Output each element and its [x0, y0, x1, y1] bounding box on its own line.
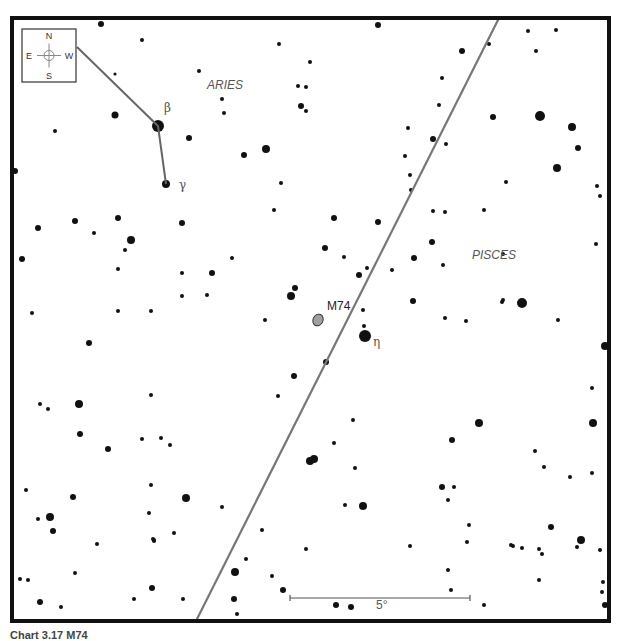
star: [535, 111, 545, 121]
star: [362, 324, 366, 328]
star: [272, 208, 276, 212]
star: [35, 225, 41, 231]
star: [50, 528, 56, 534]
star: [235, 612, 239, 616]
m74-galaxy-icon: [311, 312, 325, 327]
star: [511, 544, 515, 548]
star: [263, 318, 267, 322]
star: [410, 298, 416, 304]
star: [231, 568, 239, 576]
star: [517, 298, 527, 308]
star: [533, 449, 537, 453]
star: [475, 419, 483, 427]
star: [18, 577, 22, 581]
star: [331, 215, 337, 221]
star: [75, 400, 83, 408]
star: [26, 578, 30, 582]
star: [292, 285, 298, 291]
star: [490, 114, 496, 120]
chart-caption: Chart 3.17 M74: [10, 629, 88, 641]
compass-label: E: [26, 51, 32, 61]
compass-label: N: [46, 31, 53, 41]
star: [361, 308, 365, 312]
star: [112, 112, 119, 119]
star: [575, 545, 579, 549]
star: [568, 123, 576, 131]
star: [115, 215, 121, 221]
star: [446, 568, 450, 572]
star: [168, 443, 172, 447]
star: [241, 152, 247, 158]
star: [92, 231, 96, 235]
star: [439, 484, 445, 490]
star: [152, 538, 156, 542]
star: [577, 536, 585, 544]
star: [220, 97, 224, 101]
star: [590, 471, 594, 475]
star: [600, 590, 604, 594]
star: [594, 242, 598, 246]
star: [36, 517, 40, 521]
star: [38, 402, 42, 406]
star: [575, 145, 581, 151]
star: [19, 256, 25, 262]
star: [222, 111, 226, 115]
star: [589, 419, 597, 427]
star: [304, 547, 308, 551]
star: [116, 309, 120, 313]
star: [430, 136, 436, 142]
star: [72, 218, 78, 224]
star: [464, 319, 468, 323]
star: [70, 494, 76, 500]
star: [375, 219, 381, 225]
star: [298, 103, 304, 109]
star: [542, 465, 546, 469]
star: [95, 542, 99, 546]
star: [197, 69, 201, 73]
star: [147, 511, 151, 515]
star: [149, 585, 155, 591]
star: [348, 604, 354, 610]
star: [276, 394, 280, 398]
star: [186, 135, 192, 141]
star: [501, 298, 505, 302]
star: [333, 602, 339, 608]
star: [343, 503, 347, 507]
star: [280, 587, 286, 593]
star: [446, 498, 450, 502]
star: [408, 544, 412, 548]
star: [359, 330, 371, 342]
star: [304, 85, 308, 89]
star: [465, 540, 469, 544]
star: [554, 28, 558, 32]
stars-layer: [12, 21, 609, 616]
star: [132, 597, 136, 601]
star: [230, 256, 234, 260]
star-label: β: [164, 101, 171, 115]
star: [149, 309, 153, 313]
star: [304, 109, 308, 113]
chart-frame: [12, 18, 609, 621]
star: [449, 588, 453, 592]
star: [441, 263, 445, 267]
star: [459, 48, 465, 54]
star: [556, 318, 560, 322]
star: [140, 38, 144, 42]
scale-label: 5°: [376, 598, 388, 612]
star: [98, 21, 104, 27]
star: [452, 485, 456, 489]
star: [449, 437, 455, 443]
star: [598, 194, 602, 198]
star: [526, 29, 530, 33]
star: [310, 455, 318, 463]
compass-rose-icon: NSEW: [22, 29, 76, 82]
star: [180, 271, 184, 275]
star: [534, 49, 538, 53]
star: [182, 494, 190, 502]
star: [24, 488, 28, 492]
constellation-lines: [77, 47, 166, 184]
star: [406, 126, 410, 130]
star: [444, 142, 448, 146]
star: [595, 184, 599, 188]
star: [46, 407, 50, 411]
